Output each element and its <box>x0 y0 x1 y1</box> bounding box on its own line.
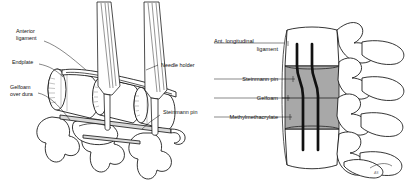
transverse-processes <box>337 23 404 178</box>
label-methylmethacrylate: Methylmethacrylate <box>230 114 279 120</box>
panel-intraoperative-view: Anterior ligament Endplate Gelfoam over … <box>0 0 210 191</box>
artist-signature-text: AS <box>373 171 379 175</box>
label-needle-holder: Needle holder <box>161 62 195 68</box>
label-endplate: Endplate <box>12 59 33 65</box>
label-anterior-ligament-line1: Anterior <box>16 28 35 34</box>
label-gelfoam-over-dura-line1: Gelfoam <box>10 84 31 90</box>
label-gelfoam: Gelfoam <box>257 95 278 101</box>
label-steinmann-pin-right: Steinmann pin <box>242 76 278 82</box>
medical-illustration-figure: Anterior ligament Endplate Gelfoam over … <box>0 0 420 191</box>
methylmethacrylate-graft-block <box>282 66 339 129</box>
label-ant-longitudinal-ligament-line2: ligament <box>257 46 279 52</box>
label-steinmann-pin: Steinmann pin <box>163 109 197 115</box>
label-ant-longitudinal-ligament-line1: Ant. longitudinal <box>214 38 254 44</box>
label-anterior-ligament-line2: ligament <box>16 35 37 41</box>
label-gelfoam-over-dura-line2: over dura <box>10 91 33 97</box>
panel-lateral-reconstruction-view: Ant. longitudinal ligament Steinmann pin… <box>210 0 420 191</box>
